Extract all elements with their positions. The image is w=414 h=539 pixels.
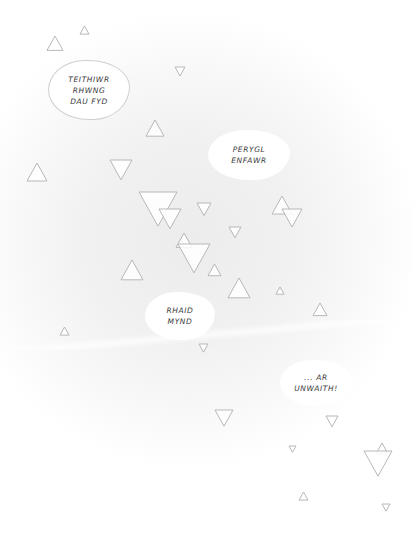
triangle-down-icon <box>282 209 302 227</box>
speech-bubble-must-go: RHAID MYND <box>145 292 215 340</box>
bubble-text-line: PERYGL <box>233 144 266 155</box>
triangle-down-icon <box>215 410 233 426</box>
bubble-text-line: TEITHIWR <box>68 74 109 85</box>
triangle-up-icon <box>27 163 47 181</box>
triangle-up-icon <box>228 278 250 298</box>
triangle-up-icon <box>276 287 284 294</box>
bubble-text-line: RHAID <box>167 305 194 316</box>
triangle-up-icon <box>47 36 63 50</box>
triangle-down-icon <box>175 67 185 76</box>
bubble-text-line: ENFAWR <box>231 155 266 166</box>
bubble-text-line: MYND <box>168 316 193 327</box>
speech-bubble-at-once: ... AR UNWAITH! <box>280 360 352 406</box>
comic-page: TEITHIWR RHWNG DAU FYD PERYGL ENFAWR RHA… <box>0 0 414 539</box>
speech-bubble-danger: PERYGL ENFAWR <box>208 130 290 180</box>
triangle-up-icon <box>60 327 69 335</box>
triangle-down-icon <box>229 227 241 238</box>
triangle-down-icon <box>197 203 211 216</box>
bubble-text-line: ... AR <box>304 372 327 383</box>
triangle-up-icon <box>80 26 89 34</box>
triangle-down-icon <box>199 344 208 352</box>
triangle-up-icon <box>146 120 164 136</box>
triangle-down-icon <box>326 416 338 427</box>
speech-bubble-traveller: TEITHIWR RHWNG DAU FYD <box>48 60 130 120</box>
bubble-text-line: UNWAITH! <box>294 383 338 394</box>
triangle-up-icon <box>208 264 221 276</box>
triangle-down-icon <box>382 504 390 511</box>
triangle-down-icon <box>178 244 210 273</box>
triangle-down-icon <box>110 160 132 180</box>
bubble-text-line: DAU FYD <box>70 96 108 107</box>
triangle-up-icon <box>121 260 143 280</box>
triangle-down-icon <box>364 451 392 476</box>
triangle-up-icon <box>299 492 308 500</box>
triangle-down-icon <box>289 446 296 452</box>
triangle-up-icon <box>313 303 327 316</box>
bubble-text-line: RHWNG <box>73 85 106 96</box>
